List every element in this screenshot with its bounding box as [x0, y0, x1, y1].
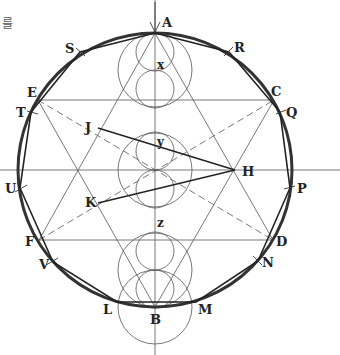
point-label-x: x — [157, 58, 165, 72]
point-label-K: K — [85, 195, 97, 210]
point-label-y: y — [156, 135, 165, 149]
hexagram-line-a-f — [39, 33, 155, 240]
point-label-z: z — [157, 216, 164, 230]
point-label-F: F — [25, 234, 35, 249]
point-label-H: H — [242, 164, 254, 179]
point-label-C: C — [271, 84, 281, 99]
point-label-L: L — [103, 302, 112, 317]
point-label-B: B — [150, 312, 161, 327]
hexagram-line-b-e — [38, 100, 155, 307]
point-label-Q: Q — [286, 105, 297, 120]
point-label-V: V — [38, 257, 50, 272]
geometry-diagram: ABCDEFHJKLMNPQRSTUVxyz — [0, 0, 340, 355]
point-label-S: S — [65, 41, 74, 56]
point-label-T: T — [16, 105, 26, 120]
point-label-M: M — [198, 302, 212, 317]
point-label-U: U — [5, 181, 17, 196]
point-label-R: R — [234, 40, 245, 55]
point-label-N: N — [262, 255, 274, 270]
point-label-D: D — [276, 234, 287, 249]
point-label-A: A — [161, 15, 173, 30]
arrow-to-a-icon — [150, 2, 160, 32]
hexagram-line-a-d — [155, 33, 273, 240]
point-label-E: E — [27, 85, 37, 100]
point-label-J: J — [84, 120, 91, 135]
point-labels: ABCDEFHJKLMNPQRSTUVxyz — [5, 15, 307, 327]
point-label-P: P — [297, 181, 307, 196]
hexagram-line-b-c — [155, 100, 274, 307]
